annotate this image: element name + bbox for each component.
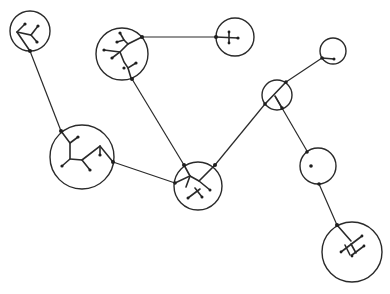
node-g <box>320 38 346 64</box>
edge-d-e <box>113 162 175 183</box>
edge-b-e <box>132 79 184 165</box>
edge-f-g <box>286 58 322 82</box>
node-e <box>173 162 222 210</box>
node-h <box>300 148 336 186</box>
node-d <box>50 125 115 189</box>
edge-h-i <box>319 184 337 225</box>
node-f <box>262 80 292 110</box>
node-a <box>10 11 50 53</box>
edges <box>30 37 337 225</box>
network-diagram <box>0 0 390 294</box>
edge-a-d <box>30 51 61 131</box>
node-i <box>322 222 382 282</box>
node-b <box>96 28 148 81</box>
node-c <box>214 18 254 56</box>
edge-e-f <box>215 104 265 165</box>
